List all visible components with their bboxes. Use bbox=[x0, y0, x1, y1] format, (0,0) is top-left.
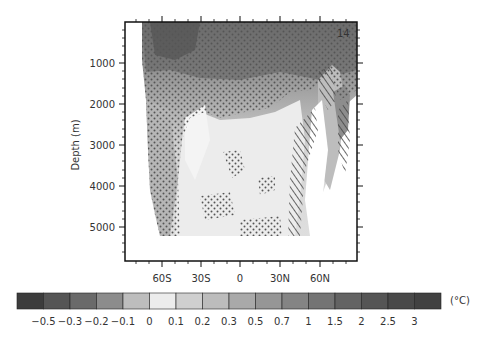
x-tick-label: 60S bbox=[152, 273, 171, 284]
colorbar-tick-label: 0.2 bbox=[195, 316, 211, 327]
colorbar-box bbox=[150, 293, 177, 309]
colorbar-tick-label: 2 bbox=[358, 316, 364, 327]
colorbar-box bbox=[362, 293, 389, 309]
colorbar-tick-label: −0.2 bbox=[84, 316, 108, 327]
colorbar-box bbox=[44, 293, 71, 309]
colorbar-box bbox=[229, 293, 256, 309]
colorbar-box bbox=[415, 293, 442, 309]
colorbar-tick-label: 0.1 bbox=[168, 316, 184, 327]
y-tick-label: 4000 bbox=[90, 181, 115, 192]
colorbar-box bbox=[256, 293, 283, 309]
colorbar-box bbox=[203, 293, 230, 309]
colorbar-tick-label: 0 bbox=[146, 316, 152, 327]
colorbar-tick-label: 2.5 bbox=[380, 316, 396, 327]
colorbar-tick-label: 0.3 bbox=[221, 316, 237, 327]
colorbar-box bbox=[70, 293, 97, 309]
y-tick-label: 2000 bbox=[90, 99, 115, 110]
colorbar-tick-label: 0.5 bbox=[248, 316, 264, 327]
colorbar-box bbox=[388, 293, 415, 309]
colorbar-box bbox=[17, 293, 44, 309]
plot-field bbox=[142, 22, 357, 236]
colorbar-boxes bbox=[17, 293, 441, 309]
y-tick-label: 1000 bbox=[90, 58, 115, 69]
colorbar: −0.5−0.3−0.2−0.100.10.20.30.50.711.522.5… bbox=[17, 293, 470, 327]
colorbar-tick-label: 1.5 bbox=[327, 316, 343, 327]
x-tick-label: 60N bbox=[310, 273, 330, 284]
colorbar-box bbox=[97, 293, 124, 309]
colorbar-box bbox=[176, 293, 203, 309]
colorbar-tick-label: 1 bbox=[305, 316, 311, 327]
colorbar-tick-label: 3 bbox=[411, 316, 417, 327]
colorbar-box bbox=[335, 293, 362, 309]
panel-label: 14 bbox=[337, 28, 350, 39]
y-tick-label: 3000 bbox=[90, 140, 115, 151]
colorbar-box bbox=[123, 293, 150, 309]
colorbar-unit: (°C) bbox=[450, 295, 470, 306]
colorbar-tick-label: −0.1 bbox=[111, 316, 135, 327]
colorbar-tick-label: 0.7 bbox=[274, 316, 290, 327]
colorbar-labels: −0.5−0.3−0.2−0.100.10.20.30.50.711.522.5… bbox=[31, 316, 417, 327]
x-tick-label: 0 bbox=[237, 273, 243, 284]
x-tick-label: 30N bbox=[270, 273, 290, 284]
colorbar-tick-label: −0.5 bbox=[31, 316, 55, 327]
y-tick-label: 5000 bbox=[90, 222, 115, 233]
colorbar-tick-label: −0.3 bbox=[58, 316, 82, 327]
chart-figure: 14 1000 200 bbox=[0, 0, 485, 340]
colorbar-box bbox=[282, 293, 309, 309]
y-axis-label: Depth (m) bbox=[70, 119, 81, 170]
x-tick-label: 30S bbox=[191, 273, 210, 284]
colorbar-box bbox=[309, 293, 336, 309]
